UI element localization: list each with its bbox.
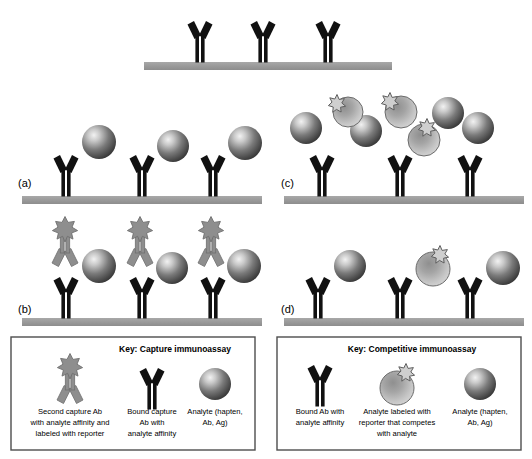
legend-capture-immunoassay: Key: Capture immunoassay Second capture … <box>11 337 255 450</box>
capture-antibody <box>201 277 226 319</box>
analyte-sphere <box>228 126 262 160</box>
labeled-analyte <box>416 246 450 287</box>
panel-label-c: (c) <box>281 177 294 189</box>
legend-caption-line: Analyte (hapten, <box>187 407 242 416</box>
panel-c: (c) <box>281 93 524 205</box>
panel-top <box>144 21 392 70</box>
labeled-analyte <box>408 119 440 157</box>
legend-caption-line: analyte affinity <box>128 429 177 438</box>
capture-antibody <box>130 155 155 197</box>
panel-a: (a) <box>18 125 262 204</box>
analyte-sphere <box>82 125 116 159</box>
reporter-labeled-antibody <box>198 217 224 267</box>
legend-caption-line: Ab, Ag) <box>203 418 228 427</box>
capture-antibody <box>388 155 413 197</box>
analyte-sphere-icon <box>464 368 496 400</box>
capture-antibody <box>251 21 276 63</box>
substrate-bar-b <box>22 318 262 326</box>
capture-antibody <box>188 21 213 63</box>
legend-caption-line: with analyte affinity and <box>30 418 110 427</box>
capture-antibody <box>388 277 413 319</box>
capture-antibody <box>130 277 155 319</box>
analyte-sphere <box>156 252 188 284</box>
legend-caption-line: with analyte <box>376 429 417 438</box>
analyte-sphere <box>486 251 520 285</box>
figure-canvas: (a) (b) <box>0 0 532 459</box>
labeled-analyte <box>328 95 363 128</box>
reporter-labeled-antibody <box>127 217 153 267</box>
panel-b: (b) <box>18 217 262 327</box>
substrate-bar-a <box>22 196 262 204</box>
legend-title-capture: Key: Capture immunoassay <box>119 344 231 354</box>
substrate-bar-d <box>284 318 524 326</box>
panel-d: (d) <box>281 246 524 327</box>
legend-caption-line: reporter that competes <box>359 418 436 427</box>
labeled-analyte <box>381 93 417 129</box>
capture-antibody <box>458 277 483 319</box>
analyte-sphere <box>334 250 366 282</box>
analyte-sphere <box>462 112 494 144</box>
analyte-sphere <box>432 97 464 129</box>
legend-title-competitive: Key: Competitive immunoassay <box>348 344 477 354</box>
panel-label-b: (b) <box>18 303 31 315</box>
capture-antibody <box>310 155 335 197</box>
capture-antibody <box>306 277 331 319</box>
legend-caption-line: Bound capture <box>127 407 176 416</box>
capture-antibody <box>201 155 226 197</box>
analyte-sphere <box>227 249 261 283</box>
substrate-bar-top <box>144 62 392 70</box>
legend-caption-line: analyte affinity <box>296 418 345 427</box>
legend-caption-line: Analyte (hapten, <box>452 407 507 416</box>
legend-caption-line: Second capture Ab <box>38 407 102 416</box>
legend-caption-line: Ab, Ag) <box>468 418 493 427</box>
analyte-sphere <box>157 130 189 162</box>
legend-caption-line: Analyte labeled with <box>363 407 431 416</box>
analyte-sphere-icon <box>199 368 231 400</box>
legend-caption-line: Bound Ab with <box>296 407 345 416</box>
panel-label-a: (a) <box>18 177 31 189</box>
capture-antibody <box>54 155 79 197</box>
legend-caption-line: labeled with reporter <box>36 429 105 438</box>
capture-antibody <box>458 155 483 197</box>
capture-antibody <box>316 21 341 63</box>
substrate-bar-c <box>284 196 524 204</box>
panel-label-d: (d) <box>281 303 294 315</box>
legend-caption-line: Ab with <box>140 418 165 427</box>
reporter-labeled-antibody <box>52 217 78 267</box>
analyte-sphere <box>290 112 322 144</box>
legend-competitive-immunoassay: Key: Competitive immunoassay Bound Ab wi… <box>277 337 521 450</box>
capture-antibody <box>54 277 79 319</box>
analyte-sphere <box>82 249 116 283</box>
